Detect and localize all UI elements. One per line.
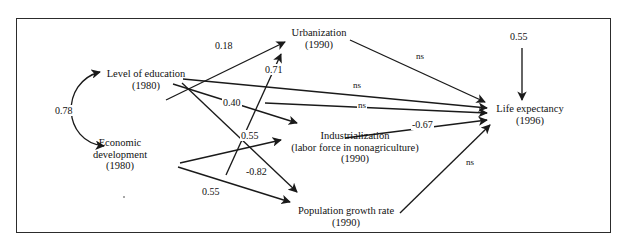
node-urbanization: Urbanization (1990) bbox=[283, 27, 355, 50]
node-industrialization-line2: (labor force in nonagriculture) bbox=[280, 142, 430, 154]
label-edu-indus: 0.40 bbox=[222, 97, 242, 108]
label-econ-pop: 0.55 bbox=[201, 186, 221, 197]
stray-speck bbox=[123, 196, 125, 198]
node-economic-line3: (1980) bbox=[72, 160, 168, 172]
label-edu-pop: -0.82 bbox=[245, 166, 268, 177]
node-education: Level of education (1980) bbox=[96, 68, 196, 91]
label-econ-urban: 0.18 bbox=[214, 40, 234, 51]
node-urbanization-line2: (1990) bbox=[283, 39, 355, 51]
node-economic-line2: development bbox=[72, 149, 168, 161]
node-population-line1: Population growth rate bbox=[298, 205, 394, 216]
label-indus-life: -0.67 bbox=[411, 119, 434, 130]
node-life-line1: Life expectancy bbox=[496, 103, 563, 114]
node-industrialization-line3: (1990) bbox=[280, 153, 430, 165]
path-diagram-figure: Level of education (1980) Economic devel… bbox=[0, 0, 627, 252]
node-life-line2: (1996) bbox=[490, 115, 570, 127]
label-urban-life: ns bbox=[415, 51, 425, 62]
label-cov-edu-econ: 0.78 bbox=[54, 105, 74, 116]
node-urbanization-line1: Urbanization bbox=[292, 27, 347, 38]
node-economic-line1: Economic bbox=[99, 137, 142, 148]
node-economic: Economic development (1980) bbox=[72, 137, 168, 172]
label-pop-life: ns bbox=[465, 157, 475, 168]
label-econ-indus: 0.55 bbox=[240, 130, 260, 141]
node-population: Population growth rate (1990) bbox=[285, 205, 407, 228]
node-industrialization-line1: Industrialization bbox=[321, 130, 390, 141]
node-education-line2: (1980) bbox=[96, 80, 196, 92]
label-disturbance-life: 0.55 bbox=[509, 31, 529, 42]
node-industrialization: Industrialization (labor force in nonagr… bbox=[280, 130, 430, 165]
node-life-expectancy: Life expectancy (1996) bbox=[490, 103, 570, 126]
node-education-line1: Level of education bbox=[107, 68, 186, 79]
label-econ-life: ns bbox=[357, 100, 367, 111]
label-edu-life: ns bbox=[352, 80, 362, 91]
node-population-line2: (1990) bbox=[285, 217, 407, 229]
label-edu-urban: 0.71 bbox=[264, 64, 284, 75]
